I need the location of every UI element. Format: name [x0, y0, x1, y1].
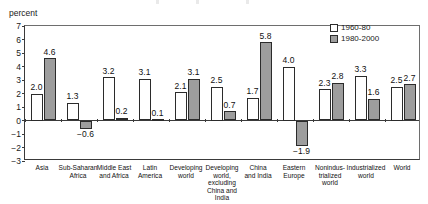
bar-value-label: 1.3	[62, 92, 84, 101]
white-square-icon	[330, 24, 338, 32]
plot-area: 76543210−1−2−3 2.04.61.3−0.63.20.23.10.1…	[24, 25, 420, 160]
bar-group: 1.3−0.6	[61, 26, 97, 159]
bar-value-label: 3.3	[350, 65, 372, 74]
bar-group: 1.75.8	[241, 26, 277, 159]
x-axis-tick-mark	[205, 119, 206, 122]
legend-label: 1980-2000	[341, 33, 379, 44]
scan-artifact	[150, 0, 330, 4]
x-axis-tick-mark	[97, 119, 98, 122]
bar-value-label: 1.6	[363, 88, 385, 97]
bar	[260, 42, 272, 120]
x-axis-tick-mark	[349, 119, 350, 122]
bar	[332, 83, 344, 121]
bar	[368, 99, 380, 121]
bar-group: 2.32.8	[313, 26, 349, 159]
bar-value-label: 0.1	[147, 109, 169, 118]
y-axis-tick-label: 1	[3, 103, 21, 112]
bar	[296, 121, 308, 147]
bar	[404, 84, 416, 120]
bar-group: 2.13.1	[169, 26, 205, 159]
plot-inner: 76543210−1−2−3 2.04.61.3−0.63.20.23.10.1…	[25, 26, 419, 159]
bar-value-label: 2.7	[399, 74, 421, 83]
y-axis-tick-label: −1	[3, 130, 21, 139]
bar	[31, 94, 43, 121]
bar	[319, 89, 331, 120]
x-axis-tick-mark	[133, 119, 134, 122]
x-axis-tick-mark	[25, 119, 26, 122]
y-axis-tick-label: 0	[3, 117, 21, 126]
x-axis-tick-mark	[241, 119, 242, 122]
bar-value-label: 4.6	[39, 48, 61, 57]
x-axis-tick-mark	[61, 119, 62, 122]
bar-chart-figure: percent 76543210−1−2−3 2.04.61.3−0.63.20…	[0, 0, 428, 204]
y-axis-tick-label: −2	[3, 144, 21, 153]
bar	[44, 58, 56, 120]
bar-group: 3.31.6	[349, 26, 385, 159]
y-axis-tick-label: 4	[3, 63, 21, 72]
bar-group: 2.52.7	[385, 26, 421, 159]
bar-value-label: 4.0	[278, 56, 300, 65]
bar-value-label: −0.6	[75, 130, 97, 139]
bar-value-label: 3.1	[183, 68, 205, 77]
bar-value-label: −1.9	[291, 147, 313, 156]
bar	[80, 121, 92, 129]
bar	[355, 76, 367, 121]
y-axis-tick-mark	[22, 161, 25, 162]
legend-label: 1960-80	[341, 22, 370, 33]
y-axis-tick-label: −3	[3, 157, 21, 166]
bar-value-label: 3.2	[98, 67, 120, 76]
bar	[67, 103, 79, 121]
x-axis-tick-mark	[277, 119, 278, 122]
bar-value-label: 2.5	[206, 76, 228, 85]
bar	[116, 118, 128, 121]
y-axis-tick-label: 2	[3, 90, 21, 99]
y-axis-unit-label: percent	[9, 9, 37, 18]
bar-group: 3.10.1	[133, 26, 169, 159]
bar	[175, 92, 187, 120]
chart-legend: 1960-801980-2000	[330, 22, 379, 44]
bar	[391, 87, 403, 121]
x-axis-tick-mark	[385, 119, 386, 122]
bar-value-label: 3.1	[134, 68, 156, 77]
bar-group: 4.0−1.9	[277, 26, 313, 159]
bar-group: 2.50.7	[205, 26, 241, 159]
bar-value-label: 0.2	[111, 107, 133, 116]
bar	[188, 79, 200, 121]
bar-value-label: 2.8	[327, 72, 349, 81]
y-axis-tick-label: 3	[3, 76, 21, 85]
x-axis-tick-mark	[169, 119, 170, 122]
y-axis-tick-label: 6	[3, 36, 21, 45]
x-axis-category-label: World	[380, 164, 424, 172]
legend-item: 1960-80	[330, 22, 379, 33]
y-axis-tick-label: 5	[3, 49, 21, 58]
bar	[224, 111, 236, 120]
bar-value-label: 0.7	[219, 101, 241, 110]
bar	[247, 98, 259, 121]
bar	[152, 119, 164, 121]
gray-square-icon	[330, 35, 338, 43]
bar	[283, 67, 295, 121]
x-axis-tick-mark	[313, 119, 314, 122]
y-axis-tick-label: 7	[3, 22, 21, 31]
bar-group: 2.04.6	[25, 26, 61, 159]
legend-item: 1980-2000	[330, 33, 379, 44]
bar-group: 3.20.2	[97, 26, 133, 159]
bar-value-label: 5.8	[255, 32, 277, 41]
